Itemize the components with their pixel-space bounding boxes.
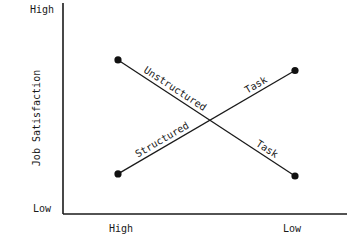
line-label-structured-task-task: Task <box>243 74 269 96</box>
series-layer: UnstructuredTaskStructuredTask <box>114 56 298 179</box>
y-tick-label-high: High <box>30 4 54 15</box>
interaction-chart: High Low Job Satisfaction High Low Unstr… <box>0 0 362 243</box>
data-point-unstructured-task-high <box>114 56 121 63</box>
line-label-unstructured-task-task: Task <box>254 138 280 160</box>
data-point-structured-task-low <box>291 67 298 74</box>
data-point-unstructured-task-low <box>291 172 298 179</box>
y-tick-label-low: Low <box>33 203 52 214</box>
line-label-unstructured-task-unstructured: Unstructured <box>142 64 208 113</box>
x-tick-label-low: Low <box>283 223 302 234</box>
data-point-structured-task-high <box>114 170 121 177</box>
x-tick-label-high: High <box>109 223 133 234</box>
line-label-structured-task-structured: Structured <box>133 120 191 160</box>
y-axis-title: Job Satisfaction <box>31 70 42 166</box>
